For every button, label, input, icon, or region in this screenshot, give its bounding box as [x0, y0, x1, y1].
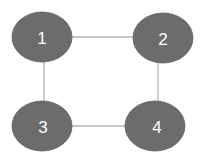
node-3: 3: [12, 101, 72, 151]
graph-diagram: 1 2 3 4: [0, 0, 208, 158]
node-2: 2: [133, 13, 193, 63]
node-4: 4: [125, 101, 185, 151]
node-2-label: 2: [158, 30, 167, 49]
node-4-label: 4: [152, 118, 161, 137]
node-1: 1: [12, 12, 72, 62]
node-1-label: 1: [37, 29, 46, 48]
node-3-label: 3: [38, 118, 47, 137]
